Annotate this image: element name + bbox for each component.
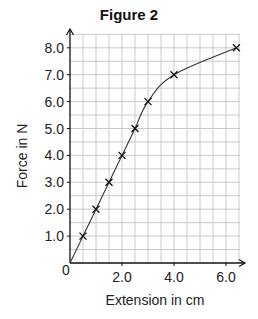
- y-tick-label: 5.0: [45, 121, 65, 137]
- x-tick-label: 6.0: [216, 269, 236, 285]
- x-tick-label: 2.0: [112, 269, 132, 285]
- y-tick-label: 3.0: [45, 174, 65, 190]
- y-tick-label: 2.0: [45, 201, 65, 217]
- y-tick-label: 1.0: [45, 228, 65, 244]
- y-tick-label: 6.0: [45, 94, 65, 110]
- x-tick-label: 4.0: [164, 269, 184, 285]
- y-tick-label: 7.0: [45, 67, 65, 83]
- chart-plot-area: 1.02.03.04.05.06.07.08.02.04.06.00: [0, 0, 258, 319]
- origin-label: 0: [62, 262, 70, 278]
- y-tick-label: 4.0: [45, 147, 65, 163]
- y-tick-label: 8.0: [45, 40, 65, 56]
